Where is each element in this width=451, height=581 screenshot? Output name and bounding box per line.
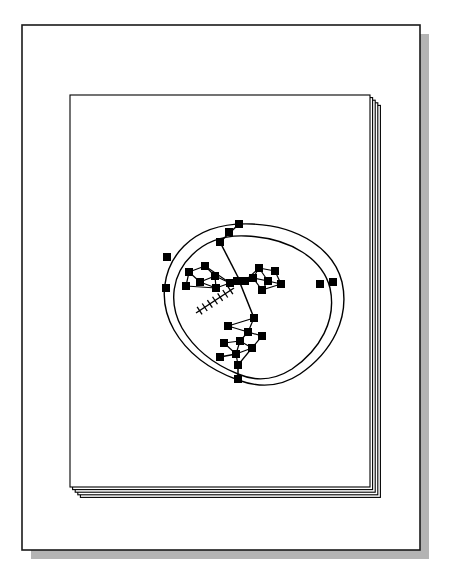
node-lo-n5 [236, 337, 244, 345]
nested-page-stack [70, 95, 380, 497]
node-right-outer [329, 278, 337, 286]
node-ul-n2 [185, 268, 193, 276]
node-lo-n1 [250, 314, 258, 322]
node-top-apex [235, 220, 243, 228]
node-ul-n5 [182, 282, 190, 290]
node-ur-n2 [271, 267, 279, 275]
node-top-inner [225, 228, 233, 236]
node-ul-hub [233, 277, 241, 285]
figure-root: Stacked page frames with central node-li… [0, 0, 451, 581]
node-ul-n7 [226, 279, 234, 287]
node-lo-n3 [244, 328, 252, 336]
node-ur-n4 [264, 277, 272, 285]
node-bottom-apex [234, 375, 242, 383]
figure-canvas [0, 0, 451, 581]
node-ur-hub [241, 277, 249, 285]
node-ul-n3 [211, 272, 219, 280]
node-ur-n5 [277, 280, 285, 288]
node-left-outer-lower [162, 284, 170, 292]
node-ul-n6 [212, 284, 220, 292]
node-lo-n7 [248, 344, 256, 352]
node-ur-n3 [249, 274, 257, 282]
node-right-inner [316, 280, 324, 288]
node-lo-n4 [258, 332, 266, 340]
node-ur-n1 [255, 264, 263, 272]
node-ur-n6 [258, 286, 266, 294]
node-lo-n8 [232, 350, 240, 358]
node-ul-n1 [201, 262, 209, 270]
node-left-outer-upper [163, 253, 171, 261]
node-ul-n4 [196, 278, 204, 286]
node-lo-n6 [220, 339, 228, 347]
node-lower-left-rim [216, 353, 224, 361]
node-lo-n2 [224, 322, 232, 330]
node-lo-n9 [234, 361, 242, 369]
node-upper-left-spine [216, 238, 224, 246]
